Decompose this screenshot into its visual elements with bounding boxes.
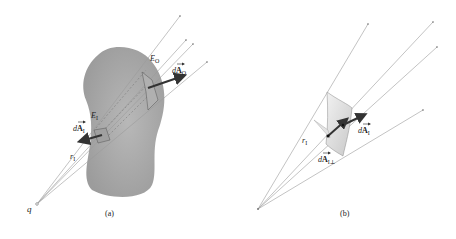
perp-area-label: dAI⊥ [318,153,335,165]
ray-endpoints [179,15,208,63]
inner-area-label: dAI [73,122,85,134]
panel-a: q EO dAO EI dAI rI (a) [27,15,208,218]
charge-label: q [27,204,32,214]
outer-field-label: EO [149,54,160,64]
closed-surface-blob [83,47,164,197]
origin-point [257,208,259,210]
radius-label: rI [302,136,307,146]
panel-a-caption: (a) [105,209,114,218]
svg-text:dAI: dAI [358,126,370,136]
svg-text:dAI: dAI [73,124,85,134]
point-charge [36,203,39,206]
patch-center-dot [327,135,330,138]
surface-patch [326,92,352,156]
patch-center-dot [342,124,344,126]
outer-area-label: dAO [172,64,187,76]
radius-label: rI [70,152,75,162]
svg-text:dAI⊥: dAI⊥ [318,155,335,165]
ray-endpoints [367,21,438,111]
svg-text:dAO: dAO [172,66,187,76]
area-label: dAI [358,124,370,136]
panel-b-caption: (b) [340,209,350,218]
gauss-law-diagram: q EO dAO EI dAI rI (a) [0,0,456,239]
panel-b: rI dAI dAI⊥ (b) [257,21,438,218]
